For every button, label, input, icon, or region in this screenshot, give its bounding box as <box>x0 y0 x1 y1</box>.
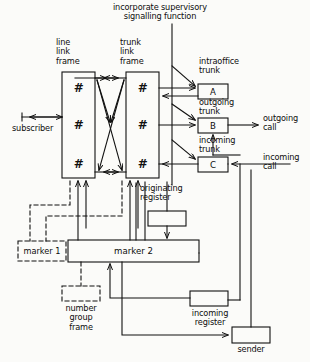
trunk-connections <box>159 88 198 164</box>
trunk-link-frame-label: trunk link frame <box>120 38 144 66</box>
marker-1-label: marker 1 <box>18 241 66 261</box>
line-frame-cell-2: # <box>62 117 95 133</box>
sender-label: sender <box>228 345 274 354</box>
incoming-register-box <box>190 291 228 306</box>
supervisory-signalling-line <box>172 24 195 185</box>
switching-system-diagram: incorporate supervisory signalling funct… <box>0 0 310 362</box>
outgoing-call-label: outgoing call <box>263 114 298 133</box>
incoming-call-label: incoming call <box>263 153 299 172</box>
subscriber-line <box>22 113 62 121</box>
outgoing-trunk-label: outgoing trunk <box>199 98 234 117</box>
originating-register-label: originating register <box>140 184 183 203</box>
trunk-c-label: C <box>198 157 228 172</box>
line-link-frame-label: line link frame <box>56 38 80 66</box>
marker-2-label: marker 2 <box>68 240 199 262</box>
trunk-b-label: B <box>198 118 228 133</box>
intraoffice-trunk-label: intraoffice trunk <box>199 57 239 76</box>
subscriber-label: subscriber <box>12 124 53 133</box>
line-frame-cell-3: # <box>62 156 95 172</box>
number-group-frame-label: number group frame <box>58 304 104 332</box>
incoming-register-label: incoming register <box>184 309 236 328</box>
trunk-frame-cell-1: # <box>126 80 159 96</box>
sender-box <box>232 327 270 343</box>
supervisory-note: incorporate supervisory signalling funct… <box>100 3 220 22</box>
line-frame-cell-1: # <box>62 80 95 96</box>
number-group-frame-box <box>62 286 100 301</box>
trunk-frame-cell-2: # <box>126 117 159 133</box>
originating-register-box <box>148 211 186 226</box>
marker1-links <box>30 181 122 286</box>
diagram-canvas <box>0 0 310 362</box>
marker2-to-frames <box>78 181 138 240</box>
trunk-frame-cell-3: # <box>126 156 159 172</box>
incoming-trunk-label: incoming trunk <box>199 136 235 155</box>
